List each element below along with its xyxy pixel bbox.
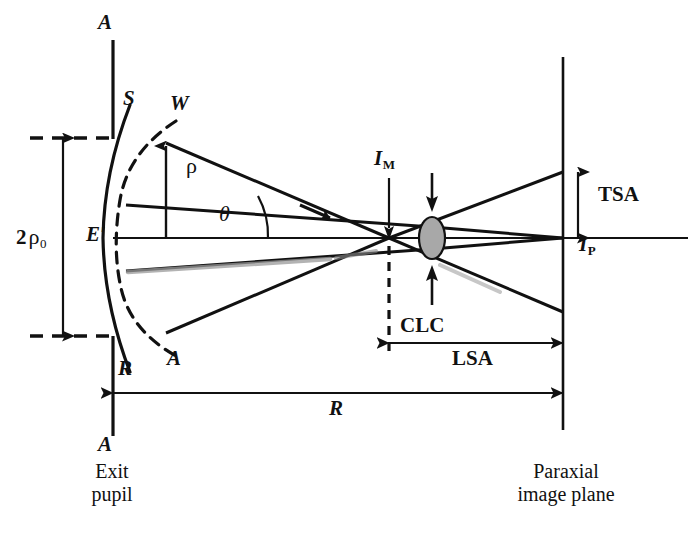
edge-point-prime: ′ (100, 222, 106, 246)
circle-of-least-confusion (419, 217, 445, 259)
lsa-label: LSA (452, 348, 493, 369)
marginal-image-subscript: M (382, 157, 395, 172)
aperture-label-top: A (98, 12, 112, 33)
marginal-ray-lower-incoming (166, 238, 389, 333)
zonal-ray-upper-outgoing (432, 227, 563, 238)
marginal-image-letter: I (374, 146, 382, 170)
aperture-diameter-prefix: 2 (16, 225, 27, 249)
aperture-diameter-subscript: 0 (39, 236, 46, 251)
edge-point-letter: E (86, 222, 100, 246)
zonal-ray-lower-outgoing (432, 238, 563, 249)
edge-point-label: E′ (86, 224, 106, 245)
marginal-ray-lower-outgoing (389, 172, 563, 238)
marginal-ray-upper-incoming (166, 143, 389, 238)
faint-ray-lower (128, 259, 330, 272)
tsa-label: TSA (598, 184, 639, 205)
ray-lower-label: A (167, 348, 181, 369)
marginal-image-pointer-group (384, 178, 394, 240)
clc-pointer-bottom (426, 265, 438, 305)
paraxial-image-letter: I (579, 232, 587, 256)
aperture-diameter-rho: ρ (27, 224, 40, 249)
image-plane-caption-line1: Paraxial (486, 460, 646, 483)
paraxial-image-subscript: P (587, 243, 595, 258)
optics-figure: A S W E′ ρ θ 2ρ0 IM IP CLC TSA LSA R R A… (0, 0, 688, 534)
exit-pupil-caption: Exit pupil (62, 460, 162, 506)
reference-sphere-label: S (123, 88, 135, 109)
aperture-label-bottom: A (98, 434, 112, 455)
exit-pupil-caption-line1: Exit (62, 460, 162, 483)
exit-pupil-caption-line2: pupil (62, 483, 162, 506)
rho-label: ρ (186, 155, 197, 177)
ray-r-label: R (118, 358, 132, 379)
clc-pointer-top (426, 173, 438, 212)
radius-label: R (329, 398, 343, 419)
marginal-image-label: IM (374, 148, 395, 171)
lower-ray-fan (126, 172, 563, 333)
image-plane-caption-line2: image plane (486, 483, 646, 506)
wavefront-label: W (170, 93, 189, 114)
paraxial-image-label: IP (579, 234, 596, 257)
image-plane-caption: Paraxial image plane (486, 460, 646, 506)
aperture-diameter-label: 2ρ0 (16, 226, 46, 250)
theta-label: θ (219, 203, 230, 225)
theta-angle-arc (258, 196, 268, 238)
clc-label: CLC (400, 315, 444, 336)
zonal-ray-upper-incoming (126, 205, 432, 227)
faint-ray-lower-3 (440, 265, 500, 292)
